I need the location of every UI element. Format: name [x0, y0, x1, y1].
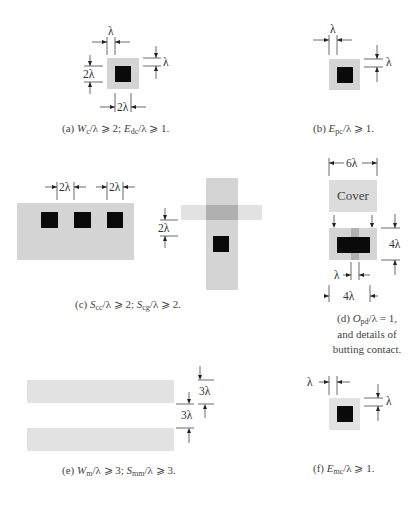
caption-f: (f) Emc/λ ⩾ 1.: [313, 461, 374, 477]
dim-label-f-right: λ: [386, 396, 392, 408]
dim-label-f-left: λ: [307, 377, 313, 389]
dimension-lines-f: [0, 0, 416, 505]
